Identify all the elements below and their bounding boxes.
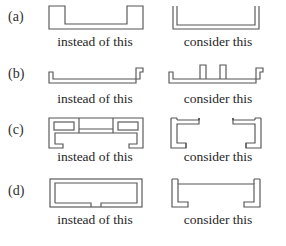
shape-c-right-lip-ends bbox=[186, 143, 246, 148]
figure-row-b: (b) instead of this consider this bbox=[0, 59, 286, 116]
row-label-d: (d) bbox=[8, 183, 42, 199]
shape-b-left-outline bbox=[49, 68, 143, 83]
shape-a-right-svg bbox=[166, 2, 266, 36]
row-label-c: (c) bbox=[8, 122, 42, 138]
shape-d-right-outer bbox=[172, 179, 260, 207]
caption-b-right: consider this bbox=[160, 91, 276, 107]
shape-d-right-svg bbox=[166, 176, 266, 214]
shape-c-right-open-hat-section-with-return-lips bbox=[166, 115, 266, 153]
shape-c-left-corner-box-right bbox=[118, 122, 138, 130]
shape-c-left-svg bbox=[46, 115, 146, 153]
shape-a-right-thin-wall-u-channel-open bbox=[166, 2, 266, 36]
shape-d-left-closed-rectangular-tube-with-bottom-slit bbox=[46, 176, 146, 214]
figure-sheet-metal-sections: (a) instead of this consider this (b) bbox=[0, 0, 286, 246]
caption-a-right: consider this bbox=[160, 34, 276, 50]
caption-c-left: instead of this bbox=[34, 149, 156, 165]
shape-b-left-flat-plate-with-end-lips bbox=[46, 59, 146, 93]
shape-b-right-rib-2 bbox=[220, 65, 226, 79]
caption-b-left: instead of this bbox=[34, 91, 156, 107]
shape-b-right-base-outline bbox=[169, 68, 263, 83]
caption-a-left: instead of this bbox=[34, 34, 156, 50]
shape-d-left-svg bbox=[46, 176, 146, 214]
shape-b-right-flat-plate-with-end-lips-and-stiffener-ribs bbox=[166, 59, 266, 93]
shape-a-left-outline bbox=[49, 6, 143, 29]
figure-row-c: (c) instea bbox=[0, 115, 286, 172]
shape-c-right-crown-inner bbox=[177, 118, 255, 120]
shape-b-right-rib-1 bbox=[200, 65, 206, 79]
shape-a-left-closed-box-channel-with-raised-ends bbox=[46, 2, 146, 36]
row-label-b: (b) bbox=[8, 66, 42, 82]
shape-a-left-svg bbox=[46, 2, 146, 36]
shape-b-left-svg bbox=[46, 59, 146, 93]
shape-c-left-crown-web bbox=[79, 118, 113, 133]
shape-c-right-svg bbox=[166, 115, 266, 153]
shape-c-left-corner-box-left bbox=[54, 122, 74, 130]
caption-d-left: instead of this bbox=[34, 212, 156, 228]
caption-c-right: consider this bbox=[160, 149, 276, 165]
shape-d-left-inner-with-slit bbox=[55, 183, 137, 207]
shape-c-right-outer bbox=[171, 118, 261, 148]
caption-d-right: consider this bbox=[160, 212, 276, 228]
figure-row-a: (a) instead of this consider this bbox=[0, 2, 286, 59]
shape-b-right-svg bbox=[166, 59, 266, 93]
shape-d-right-open-u-channel-with-return-lips bbox=[166, 176, 266, 214]
shape-d-right-top-caps bbox=[172, 179, 260, 184]
shape-a-right-outline bbox=[173, 6, 259, 29]
row-label-a: (a) bbox=[8, 9, 42, 25]
figure-row-d: (d) instead of this consider this bbox=[0, 176, 286, 233]
shape-c-left-hat-section-with-closed-corner-boxes bbox=[46, 115, 146, 153]
